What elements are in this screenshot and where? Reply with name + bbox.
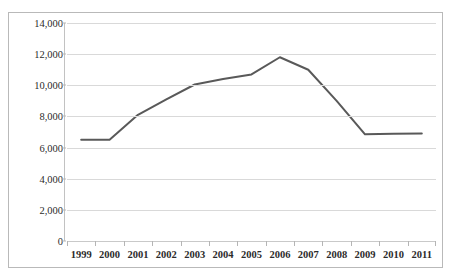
x-axis-labels: 1999200020012002200320042005200620072008… bbox=[67, 249, 436, 267]
plot-area bbox=[67, 23, 436, 241]
y-axis-labels: 02,0004,0006,0008,00010,00012,00014,000 bbox=[15, 23, 63, 241]
x-tick-mark bbox=[294, 241, 295, 246]
x-tick-mark bbox=[351, 241, 352, 246]
x-axis-tick-label: 2002 bbox=[156, 249, 177, 260]
x-tick-mark bbox=[67, 241, 68, 246]
x-axis-tick-label: 1999 bbox=[71, 249, 92, 260]
x-axis-tick-label: 2009 bbox=[355, 249, 376, 260]
x-axis-tick-label: 2003 bbox=[184, 249, 205, 260]
x-tick-mark bbox=[152, 241, 153, 246]
y-tick-mark-8000 bbox=[61, 116, 66, 117]
x-axis-tick-label: 2004 bbox=[213, 249, 234, 260]
x-axis-tick-label: 2006 bbox=[269, 249, 290, 260]
y-tick-mark-2000 bbox=[61, 209, 66, 210]
y-axis-tick-label: 8,000 bbox=[39, 111, 63, 122]
x-tick-mark bbox=[209, 241, 210, 246]
x-axis-tick-label: 2000 bbox=[99, 249, 120, 260]
x-axis-ticks bbox=[67, 241, 436, 247]
y-tick-mark-4000 bbox=[61, 178, 66, 179]
gridline-6000 bbox=[67, 148, 436, 149]
x-axis-tick-label: 2010 bbox=[383, 249, 404, 260]
y-axis-tick-label: 14,000 bbox=[34, 18, 63, 29]
line-series bbox=[67, 23, 436, 241]
gridline-12000 bbox=[67, 54, 436, 55]
gridline-10000 bbox=[67, 85, 436, 86]
y-tick-mark-10000 bbox=[61, 85, 66, 86]
x-tick-mark bbox=[181, 241, 182, 246]
y-axis-tick-label: 2,000 bbox=[39, 204, 63, 215]
y-axis-tick-label: 6,000 bbox=[39, 142, 63, 153]
x-tick-mark bbox=[322, 241, 323, 246]
series-polyline bbox=[81, 57, 422, 140]
x-tick-mark bbox=[408, 241, 409, 246]
x-tick-mark bbox=[266, 241, 267, 246]
x-tick-mark bbox=[237, 241, 238, 246]
chart-frame: 02,0004,0006,0008,00010,00012,00014,000 … bbox=[8, 12, 443, 268]
chart-plot-wrapper: 02,0004,0006,0008,00010,00012,00014,000 … bbox=[9, 13, 442, 267]
y-tick-mark-0 bbox=[61, 241, 66, 242]
x-axis-tick-label: 2001 bbox=[127, 249, 148, 260]
x-axis-tick-label: 2011 bbox=[412, 249, 432, 260]
x-tick-mark bbox=[379, 241, 380, 246]
y-axis-tick-label: 10,000 bbox=[34, 80, 63, 91]
gridline-2000 bbox=[67, 210, 436, 211]
y-tick-mark-6000 bbox=[61, 147, 66, 148]
x-tick-mark bbox=[95, 241, 96, 246]
y-tick-mark-14000 bbox=[61, 23, 66, 24]
x-axis-tick-label: 2005 bbox=[241, 249, 262, 260]
y-axis-tick-label: 12,000 bbox=[34, 49, 63, 60]
gridline-14000 bbox=[67, 23, 436, 24]
x-axis-tick-label: 2007 bbox=[298, 249, 319, 260]
x-axis-tick-label: 2008 bbox=[326, 249, 347, 260]
x-tick-mark bbox=[124, 241, 125, 246]
y-axis-line bbox=[64, 23, 65, 241]
gridline-4000 bbox=[67, 179, 436, 180]
y-axis-tick-label: 4,000 bbox=[39, 173, 63, 184]
gridline-8000 bbox=[67, 116, 436, 117]
cropped-text-artifact bbox=[0, 0, 453, 11]
x-tick-mark bbox=[435, 241, 436, 246]
y-tick-mark-12000 bbox=[61, 54, 66, 55]
